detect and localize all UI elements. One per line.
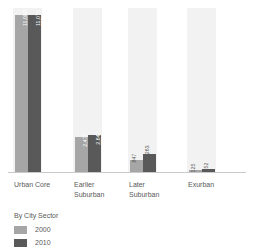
plot-area: 11,080 11,073 2,477 2,647 847 1,263 [0, 0, 254, 173]
bar-value-label: 11,073 [35, 10, 41, 26]
category-label-exurban: Exurban [188, 180, 214, 190]
legend-swatch-2010 [14, 239, 27, 247]
legend-label-2010: 2010 [35, 238, 51, 247]
x-axis-category-labels: Urban Core Earlier Suburban Later Suburb… [0, 180, 254, 206]
bar-value-label: 152 [203, 163, 209, 172]
category-label-later-suburban: Later Suburban [129, 180, 159, 199]
group-background-column [128, 8, 157, 172]
legend-swatch-2000 [14, 226, 27, 234]
legend-label-2000: 2000 [35, 225, 51, 234]
x-axis-line [8, 172, 246, 173]
bar-2000-earlier-suburban[interactable]: 2,477 [75, 137, 88, 172]
bar-value-label: 2,647 [95, 131, 101, 144]
bar-2000-later-suburban[interactable]: 847 [130, 160, 143, 172]
legend-item-2010[interactable]: 2010 [14, 237, 58, 248]
bar-2000-urban-core[interactable]: 11,080 [15, 15, 28, 172]
legend: By City Sector 2000 2010 [14, 211, 58, 250]
category-label-urban-core: Urban Core [14, 180, 50, 190]
bar-chart: 11,080 11,073 2,477 2,647 847 1,263 [0, 0, 254, 250]
bar-value-label: 847 [131, 154, 137, 163]
bar-2010-urban-core[interactable]: 11,073 [28, 15, 41, 172]
bar-value-label: 2,477 [82, 133, 88, 146]
bar-2010-earlier-suburban[interactable]: 2,647 [88, 135, 101, 172]
bar-value-label: 1,263 [144, 145, 150, 158]
group-background-column [187, 8, 216, 172]
category-label-earlier-suburban: Earlier Suburban [74, 180, 104, 199]
bar-2010-later-suburban[interactable]: 1,263 [143, 154, 156, 172]
legend-title: By City Sector [14, 211, 58, 220]
legend-item-2000[interactable]: 2000 [14, 224, 58, 235]
bar-value-label: 11,080 [22, 10, 28, 26]
